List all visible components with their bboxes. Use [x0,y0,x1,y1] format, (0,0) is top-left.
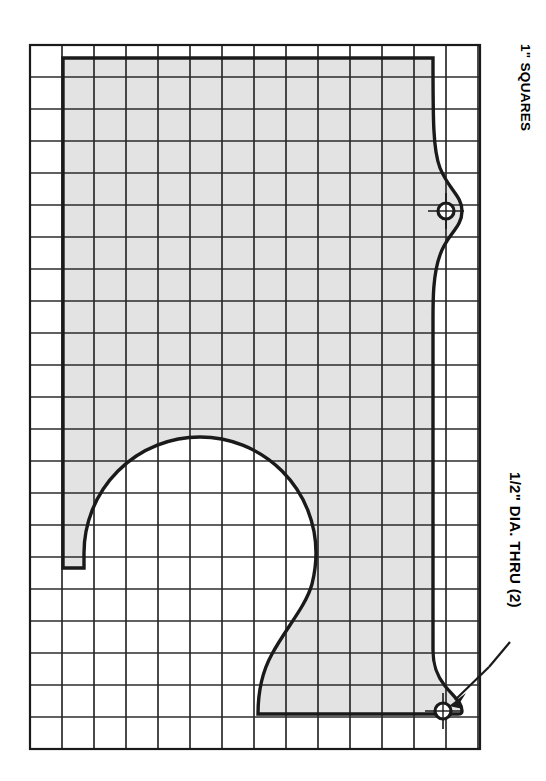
grid-scale-note: 1" SQUARES [518,44,533,131]
drawing-canvas: 1" SQUARES 1/2" DIA. THRU (2) [0,0,546,781]
pattern-drawing-svg [0,0,546,781]
hole-callout-label: 1/2" DIA. THRU (2) [507,472,524,608]
one-inch-grid [30,45,480,749]
leader-segment-horizontal [489,642,510,667]
